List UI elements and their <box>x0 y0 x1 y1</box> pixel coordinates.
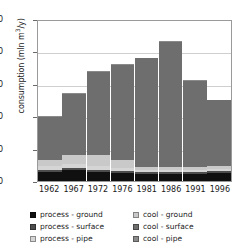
legend-swatch-icon <box>30 236 36 242</box>
legend-swatch-icon <box>133 224 139 230</box>
legend-item[interactable]: cool - pipe <box>133 234 230 243</box>
legend-item[interactable]: cool - ground <box>133 210 230 219</box>
bar-segment <box>207 100 231 166</box>
legend-swatch-icon <box>30 224 36 230</box>
bar-segment <box>38 172 62 181</box>
y-axis-title-superscript: 3 <box>14 29 21 33</box>
bar-segment <box>135 174 159 181</box>
x-tick-label: 1981 <box>135 185 159 194</box>
bar-1967 <box>62 21 86 181</box>
bar-segment <box>111 173 135 181</box>
legend-label: process - surface <box>40 222 104 231</box>
legend-swatch-icon <box>133 212 139 218</box>
bar-segment <box>62 155 86 164</box>
x-tick-label: 1972 <box>86 185 110 194</box>
y-tick-label: 1,000 <box>0 146 3 154</box>
plot-area <box>37 20 232 182</box>
bar-segment <box>111 160 135 168</box>
bar-1986 <box>159 21 183 181</box>
legend-label: process - ground <box>40 210 103 219</box>
legend-item[interactable]: process - ground <box>30 210 127 219</box>
legend: process - groundprocess - surfaceprocess… <box>30 210 230 243</box>
bar-1996 <box>207 21 231 181</box>
legend-label: cool - pipe <box>143 234 182 243</box>
stacked-bar-chart: consumption (mln m3/y) 01,0002,0003,0004… <box>0 0 241 252</box>
legend-item[interactable]: process - pipe <box>30 234 127 243</box>
y-tick-label: 0 <box>0 178 3 186</box>
x-tick-label: 1991 <box>184 185 208 194</box>
x-axis-labels: 19621967197219761981198619911996 <box>37 185 232 194</box>
x-tick-label: 1986 <box>159 185 183 194</box>
bar-segment <box>87 155 111 166</box>
y-tick-label: 4,000 <box>0 48 3 56</box>
bars-container <box>38 21 231 181</box>
bar-segment <box>135 58 159 166</box>
legend-label: cool - ground <box>143 210 192 219</box>
y-axis-title: consumption (mln m3/y) <box>14 0 26 141</box>
y-axis-title-post: /y) <box>17 18 26 28</box>
bar-segment <box>62 170 86 181</box>
legend-label: process - pipe <box>40 234 93 243</box>
legend-label: cool - surface <box>143 222 194 231</box>
bar-segment <box>38 117 62 160</box>
legend-item[interactable]: process - surface <box>30 222 127 231</box>
x-tick-label: 1996 <box>208 185 232 194</box>
bar-segment <box>183 174 207 181</box>
bar-1981 <box>135 21 159 181</box>
bar-1972 <box>87 21 111 181</box>
x-tick-label: 1967 <box>62 185 86 194</box>
bar-1962 <box>38 21 62 181</box>
bar-segment <box>159 174 183 181</box>
bar-segment <box>183 81 207 168</box>
y-tick-label: 5,000 <box>0 16 3 24</box>
bar-segment <box>159 42 183 168</box>
legend-swatch-icon <box>30 212 36 218</box>
legend-item[interactable]: cool - surface <box>133 222 230 231</box>
bar-segment <box>87 72 111 155</box>
bar-segment <box>111 65 135 160</box>
x-tick-label: 1976 <box>110 185 134 194</box>
bar-1991 <box>183 21 207 181</box>
bar-segment <box>207 173 231 181</box>
bar-segment <box>62 94 86 156</box>
legend-swatch-icon <box>133 236 139 242</box>
y-axis-title-pre: consumption (mln m <box>17 32 26 113</box>
bar-1976 <box>111 21 135 181</box>
y-tick-mark <box>33 182 37 183</box>
bar-segment <box>87 172 111 181</box>
y-tick-label: 2,000 <box>0 113 3 121</box>
y-tick-label: 3,000 <box>0 81 3 89</box>
x-tick-label: 1962 <box>37 185 61 194</box>
